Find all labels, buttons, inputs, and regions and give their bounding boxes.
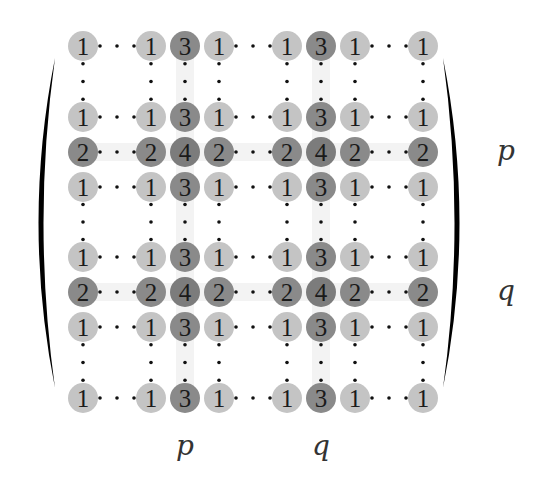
vertical-ellipsis-dot	[183, 378, 187, 382]
vertical-ellipsis-dot	[421, 378, 425, 382]
vertical-ellipsis-dot	[421, 97, 425, 101]
matrix-cell: 1	[408, 383, 438, 413]
vertical-ellipsis-dot	[149, 238, 153, 242]
matrix-cell: 4	[306, 277, 336, 307]
matrix-cell: 1	[408, 31, 438, 61]
cell-value: 1	[349, 385, 362, 412]
horizontal-ellipsis-dot	[387, 185, 391, 189]
vertical-ellipsis-dot	[217, 203, 221, 207]
cell-value: 1	[77, 104, 90, 131]
vertical-ellipsis-dot	[319, 203, 323, 207]
matrix-cell: 1	[340, 172, 370, 202]
horizontal-ellipsis-dot	[132, 185, 136, 189]
vertical-ellipsis-dot	[353, 97, 357, 101]
matrix-cell: 2	[136, 137, 166, 167]
cell-value: 3	[315, 174, 328, 201]
cell-value: 1	[417, 104, 430, 131]
vertical-ellipsis-dot	[217, 361, 221, 365]
vertical-ellipsis-dot	[421, 203, 425, 207]
cell-value: 2	[77, 279, 90, 306]
vertical-ellipsis-dot	[183, 80, 187, 84]
vertical-ellipsis-dot	[319, 361, 323, 365]
matrix-cell: 3	[306, 31, 336, 61]
horizontal-ellipsis-dot	[234, 290, 238, 294]
horizontal-ellipsis-dot	[268, 255, 272, 259]
vertical-ellipsis-dot	[81, 62, 85, 66]
cell-value: 1	[281, 174, 294, 201]
matrix-cell: 1	[408, 312, 438, 342]
horizontal-ellipsis-dot	[268, 325, 272, 329]
vertical-ellipsis-dot	[353, 238, 357, 242]
matrix-cell: 1	[272, 312, 302, 342]
horizontal-ellipsis-dot	[98, 290, 102, 294]
vertical-ellipsis-dot	[183, 203, 187, 207]
horizontal-ellipsis-dot	[387, 44, 391, 48]
horizontal-ellipsis-dot	[132, 396, 136, 400]
vertical-ellipsis-dot	[149, 220, 153, 224]
horizontal-ellipsis-dot	[268, 150, 272, 154]
cell-value: 1	[77, 244, 90, 271]
horizontal-ellipsis-dot	[387, 396, 391, 400]
horizontal-ellipsis-dot	[115, 255, 119, 259]
horizontal-ellipsis-dot	[115, 396, 119, 400]
cell-value: 3	[179, 33, 192, 60]
left-parenthesis	[39, 58, 56, 388]
vertical-ellipsis-dot	[285, 80, 289, 84]
matrix-cell: 1	[272, 172, 302, 202]
horizontal-ellipsis-dot	[404, 44, 408, 48]
column-label-q: q	[312, 429, 330, 462]
vertical-ellipsis-dot	[319, 378, 323, 382]
horizontal-ellipsis-dot	[234, 396, 238, 400]
matrix-cell: 3	[306, 312, 336, 342]
vertical-ellipsis-dot	[149, 378, 153, 382]
cell-value: 1	[349, 104, 362, 131]
matrix-cell: 3	[306, 102, 336, 132]
matrix-cell: 4	[170, 277, 200, 307]
matrix-cell: 2	[272, 137, 302, 167]
cell-value: 1	[213, 104, 226, 131]
vertical-ellipsis-dot	[217, 238, 221, 242]
horizontal-ellipsis-dot	[370, 44, 374, 48]
cell-value: 4	[315, 279, 328, 306]
matrix-cell: 1	[204, 383, 234, 413]
matrix-cell: 1	[204, 242, 234, 272]
horizontal-ellipsis-dot	[251, 44, 255, 48]
vertical-ellipsis-dot	[81, 343, 85, 347]
matrix-cell: 1	[136, 31, 166, 61]
vertical-ellipsis-dot	[353, 378, 357, 382]
horizontal-ellipsis-dot	[387, 255, 391, 259]
vertical-ellipsis-dot	[353, 203, 357, 207]
horizontal-ellipsis-dot	[404, 115, 408, 119]
horizontal-ellipsis-dot	[268, 44, 272, 48]
cell-value: 3	[179, 174, 192, 201]
matrix-cell: 2	[272, 277, 302, 307]
matrix-cell: 1	[136, 102, 166, 132]
matrix-cell: 3	[306, 242, 336, 272]
vertical-ellipsis-dot	[149, 361, 153, 365]
vertical-ellipsis-dot	[319, 62, 323, 66]
horizontal-ellipsis-dot	[234, 150, 238, 154]
vertical-ellipsis-dot	[183, 97, 187, 101]
cell-value: 1	[417, 174, 430, 201]
cell-value: 1	[281, 33, 294, 60]
horizontal-ellipsis-dot	[98, 150, 102, 154]
vertical-ellipsis-dot	[353, 361, 357, 365]
matrix-cell: 2	[340, 277, 370, 307]
matrix-cell: 2	[136, 277, 166, 307]
vertical-ellipsis-dot	[421, 62, 425, 66]
horizontal-ellipsis-dot	[370, 115, 374, 119]
matrix-cell: 1	[340, 242, 370, 272]
row-label-p: p	[497, 134, 515, 167]
matrix-cell: 1	[340, 383, 370, 413]
vertical-ellipsis-dot	[183, 361, 187, 365]
cell-value: 2	[349, 139, 362, 166]
cell-value: 1	[417, 244, 430, 271]
matrix-cell: 1	[204, 31, 234, 61]
horizontal-ellipsis-dot	[370, 290, 374, 294]
vertical-ellipsis-dot	[421, 343, 425, 347]
horizontal-ellipsis-dot	[115, 150, 119, 154]
matrix-cell: 1	[340, 102, 370, 132]
ellipsis-dots	[81, 44, 425, 400]
horizontal-ellipsis-dot	[387, 150, 391, 154]
matrix-cell: 3	[170, 383, 200, 413]
